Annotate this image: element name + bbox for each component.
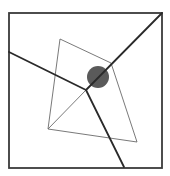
- thin-diagonal: [48, 90, 86, 129]
- thick-line-bottom: [86, 90, 124, 167]
- thick-line-left: [9, 52, 86, 90]
- thick-line-top-right: [86, 13, 162, 90]
- geometry-diagram: [0, 0, 170, 176]
- quadrilateral: [48, 39, 137, 142]
